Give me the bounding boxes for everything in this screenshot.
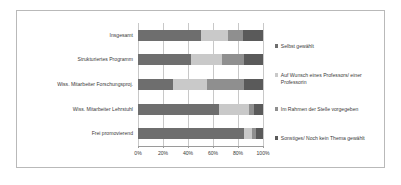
legend-swatch-icon <box>275 73 278 76</box>
legend-swatch-icon <box>275 44 278 47</box>
legend-item[interactable]: Sonstiges/ Noch kein Thema gewählt <box>275 135 379 142</box>
category-label: Wiss. Mitarbeiter Forschungsproj. <box>17 79 136 90</box>
x-tick-mark <box>238 146 239 148</box>
bar-segment <box>138 54 191 65</box>
bar-segment <box>243 30 263 41</box>
legend-item[interactable]: Selbst gewählt <box>275 43 379 50</box>
bar-segment <box>138 30 201 41</box>
bar-segment <box>228 30 243 41</box>
category-label: Wiss. Mitarbeiter Lehrstuhl <box>17 104 136 115</box>
legend-swatch-icon <box>275 136 278 139</box>
chart-legend: Selbst gewähltAuf Wunsch eines Professor… <box>275 25 379 153</box>
bar-row <box>138 30 263 41</box>
bar-row <box>138 104 263 115</box>
bar-segment <box>254 104 263 115</box>
x-tick-label: 80% <box>233 150 243 156</box>
x-tick-label: 60% <box>208 150 218 156</box>
legend-label: Auf Wunsch eines Professors/ einer Profe… <box>281 72 379 85</box>
x-tick-mark <box>188 146 189 148</box>
x-axis-line <box>138 146 263 147</box>
legend-swatch-icon <box>275 107 278 110</box>
legend-label: Im Rahmen der Stelle vorgegeben <box>281 106 359 113</box>
bar-segment <box>138 79 173 90</box>
bar-segment <box>191 54 222 65</box>
category-label: Strukturiertes Programm <box>17 54 136 65</box>
gridline <box>263 23 264 146</box>
category-label: Insgesamt <box>17 30 136 41</box>
bar-row <box>138 54 263 65</box>
bar-row <box>138 79 263 90</box>
chart-figure: InsgesamtStrukturiertes ProgrammWiss. Mi… <box>16 10 385 168</box>
legend-label: Sonstiges/ Noch kein Thema gewählt <box>281 135 365 142</box>
y-axis-category-labels: InsgesamtStrukturiertes ProgrammWiss. Mi… <box>17 23 136 146</box>
x-tick-mark <box>138 146 139 148</box>
x-tick-mark <box>213 146 214 148</box>
bar-segment <box>138 104 219 115</box>
bar-segment <box>138 128 244 139</box>
x-axis: 0%20%40%60%80%100% <box>138 146 263 162</box>
x-tick-label: 100% <box>256 150 269 156</box>
bar-segment <box>244 54 263 65</box>
bar-segment <box>222 54 245 65</box>
x-tick-label: 40% <box>183 150 193 156</box>
bar-row <box>138 128 263 139</box>
legend-item[interactable]: Im Rahmen der Stelle vorgegeben <box>275 106 379 113</box>
bar-segment <box>201 30 229 41</box>
plot-area <box>138 23 263 146</box>
bar-segment <box>173 79 207 90</box>
bar-segment <box>244 128 252 139</box>
legend-label: Selbst gewählt <box>281 43 314 50</box>
x-tick-label: 20% <box>158 150 168 156</box>
bar-segment <box>207 79 245 90</box>
bar-series-container <box>138 23 263 146</box>
bar-segment <box>244 79 263 90</box>
x-tick-mark <box>163 146 164 148</box>
bar-segment <box>256 128 264 139</box>
x-tick-mark <box>263 146 264 148</box>
legend-item[interactable]: Auf Wunsch eines Professors/ einer Profe… <box>275 72 379 85</box>
x-tick-label: 0% <box>134 150 141 156</box>
category-label: Frei promovierend <box>17 128 136 139</box>
bar-segment <box>219 104 249 115</box>
